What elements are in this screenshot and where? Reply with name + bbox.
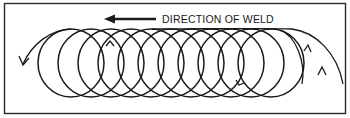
exit-stroke [23, 29, 71, 64]
arrowhead-icon [304, 45, 311, 52]
weave-circle [98, 29, 164, 97]
weave-circle [218, 29, 284, 97]
weave-circle [138, 29, 204, 97]
direction-arrow-icon [104, 15, 156, 24]
weld-weave-diagram: DIRECTION OF WELD [0, 0, 350, 118]
upward-arrow-icon [106, 41, 114, 46]
weave-circle [238, 29, 304, 97]
weave-circle [38, 29, 104, 97]
weave-circle [198, 29, 264, 97]
arrowhead-icon [318, 67, 326, 75]
weave-circle [58, 29, 124, 97]
weave-circle [78, 29, 144, 97]
weave-circle [118, 29, 184, 97]
right-arrowheads [304, 45, 326, 75]
start-path [280, 30, 310, 84]
weave-circle [158, 29, 224, 97]
direction-label: DIRECTION OF WELD [162, 13, 274, 25]
weave-circles [38, 29, 304, 97]
weave-circle [178, 29, 244, 97]
